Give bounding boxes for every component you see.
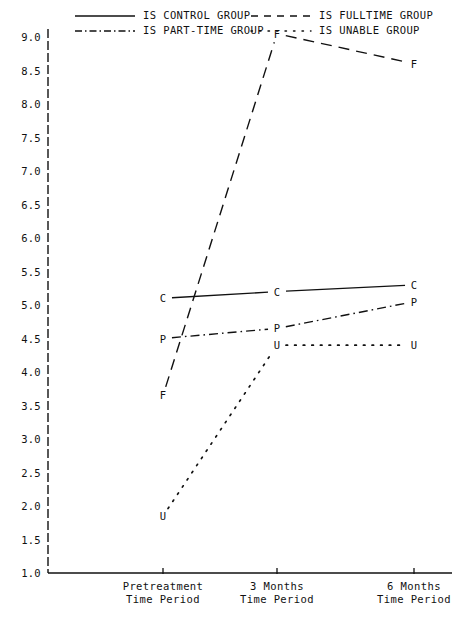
- y-axis-tick-label: 4.5: [21, 333, 41, 345]
- y-axis-tick-label: 6.5: [21, 199, 41, 211]
- y-axis-tick-label: 4.0: [21, 366, 41, 378]
- y-axis-tick-label: 6.0: [21, 232, 41, 244]
- series-line-segment: [168, 353, 272, 509]
- data-point-marker: P: [274, 322, 280, 334]
- y-axis-tick-label: 1.5: [21, 534, 41, 546]
- x-axis-tick-label: 3 Months: [250, 580, 304, 592]
- y-axis-tick-labels: 9.08.58.07.57.06.56.05.55.04.54.03.53.02…: [21, 31, 41, 579]
- y-axis-tick-label: 5.0: [21, 299, 41, 311]
- y-axis-tick-label: 9.0: [21, 31, 41, 43]
- y-axis-tick-label: 2.5: [21, 467, 41, 479]
- y-axis-tick-label: 5.5: [21, 266, 41, 278]
- data-point-marker: F: [160, 389, 166, 401]
- x-axis-line: [48, 568, 452, 574]
- plot-svg: 9.08.58.07.57.06.56.05.55.04.54.03.53.02…: [0, 0, 460, 625]
- chart-container: IS CONTROL GROUP IS FULLTIME GROUP IS PA…: [0, 0, 460, 625]
- y-axis-tick-label: 8.0: [21, 98, 41, 110]
- data-point-marker: P: [411, 296, 417, 308]
- data-point-marker: F: [274, 28, 280, 40]
- x-axis-tick-label: Time Period: [377, 593, 451, 605]
- data-point-markers: CCCFFFPPPUUU: [160, 28, 417, 522]
- series-line-segment: [286, 36, 405, 62]
- series-line-segment: [166, 42, 275, 387]
- x-axis-tick-label: Pretreatment: [123, 580, 204, 592]
- y-axis-tick-label: 8.5: [21, 65, 41, 77]
- data-point-marker: C: [160, 292, 166, 304]
- series-line-segment: [286, 303, 405, 326]
- data-point-marker: P: [160, 333, 166, 345]
- plot-area: 9.08.58.07.57.06.56.05.55.04.54.03.53.02…: [0, 0, 460, 625]
- series-line-segment: [286, 285, 405, 291]
- data-point-marker: U: [160, 510, 166, 522]
- x-axis-tick-labels: PretreatmentTime Period3 MonthsTime Peri…: [123, 580, 451, 605]
- y-axis-tick-label: 2.0: [21, 500, 41, 512]
- data-series-lines: [166, 36, 406, 509]
- y-axis-tick-label: 7.5: [21, 132, 41, 144]
- y-axis-tick-label: 7.0: [21, 165, 41, 177]
- x-axis-tick-label: 6 Months: [387, 580, 441, 592]
- data-point-marker: F: [411, 58, 417, 70]
- y-axis-tick-label: 3.0: [21, 433, 41, 445]
- x-axis-tick-label: Time Period: [126, 593, 200, 605]
- data-point-marker: U: [411, 339, 417, 351]
- data-point-marker: C: [411, 279, 417, 291]
- data-point-marker: C: [274, 286, 280, 298]
- y-axis-tick-label: 3.5: [21, 400, 41, 412]
- x-axis-tick-label: Time Period: [240, 593, 314, 605]
- y-axis-tick-label: 1.0: [21, 567, 41, 579]
- series-line-segment: [172, 292, 268, 298]
- data-point-marker: U: [274, 339, 280, 351]
- series-line-segment: [172, 329, 268, 337]
